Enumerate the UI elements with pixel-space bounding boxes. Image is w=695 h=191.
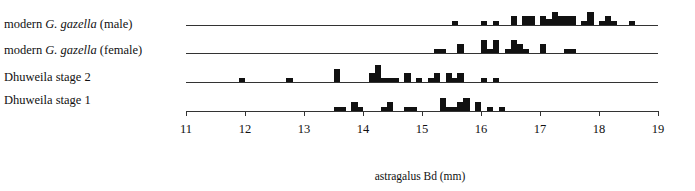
histogram-bar bbox=[611, 21, 617, 25]
x-axis-tick bbox=[304, 111, 305, 116]
x-axis-tick bbox=[245, 111, 246, 116]
histogram-bar bbox=[387, 102, 393, 111]
histogram-bar bbox=[570, 16, 576, 25]
row-label-prefix: modern bbox=[4, 17, 45, 31]
histogram-bar bbox=[440, 49, 446, 53]
x-axis-tick-label: 13 bbox=[289, 123, 319, 136]
row-label-prefix: Dhuweila stage 1 bbox=[4, 93, 91, 107]
histogram-bar bbox=[499, 107, 505, 111]
histogram-bar bbox=[570, 49, 576, 53]
histogram-bar bbox=[587, 12, 593, 25]
histogram-bar bbox=[334, 69, 340, 82]
histogram-bar bbox=[286, 78, 292, 82]
row-label: Dhuweila stage 2 bbox=[4, 71, 91, 84]
x-axis-tick-label: 11 bbox=[171, 123, 201, 136]
histogram-bar bbox=[481, 21, 487, 25]
row-label-prefix: Dhuweila stage 2 bbox=[4, 70, 91, 84]
histogram-bar bbox=[410, 107, 416, 111]
row-label: Dhuweila stage 1 bbox=[4, 94, 91, 107]
row-label-species: G. gazella bbox=[45, 17, 96, 31]
histogram-bar bbox=[475, 102, 481, 111]
histogram-bar bbox=[452, 21, 458, 25]
histogram-bar bbox=[457, 73, 463, 82]
histogram-bar bbox=[463, 98, 469, 111]
histogram-bar bbox=[481, 78, 487, 82]
row-baseline bbox=[186, 82, 658, 83]
x-axis-tick-label: 18 bbox=[584, 123, 614, 136]
histogram-bar bbox=[393, 78, 399, 82]
x-axis-tick bbox=[363, 111, 364, 116]
row-label-prefix: modern bbox=[4, 43, 45, 57]
histogram-bar bbox=[457, 44, 463, 53]
row-label-species: G. gazella bbox=[45, 43, 96, 57]
histogram-bar bbox=[339, 107, 345, 111]
histogram-bar bbox=[487, 107, 493, 111]
histogram-bar bbox=[416, 78, 422, 82]
histogram-chart: modern G. gazella (male)modern G. gazell… bbox=[0, 0, 695, 191]
x-axis-tick bbox=[422, 111, 423, 116]
x-axis-tick bbox=[658, 111, 659, 116]
x-axis-tick bbox=[599, 111, 600, 116]
x-axis-tick bbox=[186, 111, 187, 116]
histogram-bar bbox=[629, 21, 635, 25]
row-baseline bbox=[186, 53, 658, 54]
x-axis-label: astragalus Bd (mm) bbox=[360, 170, 480, 182]
histogram-bar bbox=[434, 73, 440, 82]
histogram-bar bbox=[528, 16, 534, 25]
row-label-suffix: (female) bbox=[97, 43, 142, 57]
row-label: modern G. gazella (female) bbox=[4, 44, 142, 57]
x-axis-tick-label: 19 bbox=[643, 123, 673, 136]
histogram-bar bbox=[493, 21, 499, 25]
histogram-bar bbox=[511, 16, 517, 25]
histogram-bar bbox=[239, 78, 245, 82]
x-axis-tick-label: 16 bbox=[466, 123, 496, 136]
x-axis-tick-label: 15 bbox=[407, 123, 437, 136]
x-axis-tick-label: 12 bbox=[230, 123, 260, 136]
x-axis-tick-label: 17 bbox=[525, 123, 555, 136]
row-label: modern G. gazella (male) bbox=[4, 18, 132, 31]
histogram-bar bbox=[404, 73, 410, 82]
histogram-bar bbox=[493, 78, 499, 82]
row-label-suffix: (male) bbox=[97, 17, 133, 31]
histogram-bar bbox=[493, 40, 499, 53]
histogram-bar bbox=[522, 49, 528, 53]
x-axis-tick bbox=[481, 111, 482, 116]
row-baseline bbox=[186, 25, 658, 26]
x-axis-tick bbox=[540, 111, 541, 116]
x-axis-tick-label: 14 bbox=[348, 123, 378, 136]
histogram-bar bbox=[540, 44, 546, 53]
